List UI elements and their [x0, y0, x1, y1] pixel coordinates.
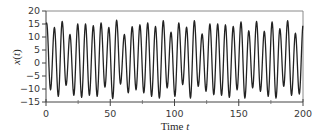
- data-series: [46, 20, 303, 99]
- y-tick-label: 15: [28, 18, 40, 29]
- time-series-chart: 20151050−5−10−15 050100150200 x(t) Time …: [0, 0, 323, 136]
- y-tick-label: 5: [34, 44, 40, 55]
- x-tick-label: 200: [294, 108, 312, 119]
- x-tick-label: 50: [104, 108, 116, 119]
- y-tick-label: −15: [20, 96, 40, 107]
- y-tick-label: 0: [34, 57, 40, 68]
- y-axis-ticks: 20151050−5−10−15: [20, 5, 46, 107]
- y-tick-label: 20: [28, 5, 40, 16]
- x-axis-title: Time t: [161, 120, 191, 132]
- y-tick-label: −10: [20, 83, 40, 94]
- x-tick-label: 150: [230, 108, 248, 119]
- y-axis-title-close: ): [10, 49, 23, 53]
- x-axis-title-var: t: [186, 120, 190, 132]
- series-line-x-of-t: [46, 20, 303, 99]
- x-tick-label: 0: [43, 108, 49, 119]
- x-axis-title-text: Time: [161, 120, 187, 132]
- x-tick-label: 100: [165, 108, 183, 119]
- y-tick-label: 10: [28, 31, 40, 42]
- y-axis-title: x(t): [10, 49, 23, 66]
- y-tick-label: −5: [26, 70, 40, 81]
